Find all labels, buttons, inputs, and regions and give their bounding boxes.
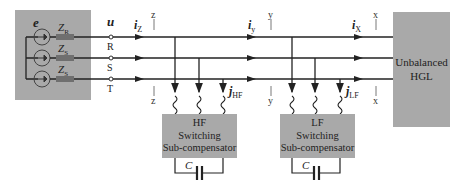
source-voltage-label: e	[33, 16, 39, 29]
compensator-name: Sub-compensator	[281, 142, 355, 155]
compensator-type: HF	[193, 117, 206, 130]
section-tick-z-bottom: z	[151, 96, 155, 106]
phase-label-s: S	[107, 63, 113, 73]
lf-compensator-label: LF Switching Sub-compensator	[280, 114, 355, 158]
current-label-jlf: jLF	[346, 85, 359, 100]
compensation-circuit-diagram: e ZR ZS ZS u R S T iZ iy iX z z y y x x …	[0, 0, 462, 190]
load-label: Unbalanced HGL	[393, 12, 450, 127]
impedance-label-t: ZS	[58, 64, 68, 78]
current-label-jhf: jHF	[229, 85, 243, 100]
current-label-iz: iZ	[134, 19, 142, 34]
load-name: HGL	[410, 70, 433, 83]
phase-label-t: T	[107, 84, 113, 94]
current-label-iy: iy	[248, 19, 255, 34]
capacitor-label-hf: C	[185, 160, 192, 171]
impedance-label-r: ZR	[58, 22, 69, 36]
section-tick-x-top: x	[373, 10, 378, 20]
compensator-name: Sub-compensator	[163, 142, 237, 155]
current-label-ix: iX	[352, 19, 361, 34]
terminal-voltage-label: u	[107, 15, 114, 28]
phase-label-r: R	[107, 42, 114, 52]
impedance-subscript: S	[64, 70, 68, 78]
current-subscript: y	[251, 25, 255, 34]
compensator-mode: Switching	[178, 130, 221, 143]
compensator-type: LF	[311, 117, 323, 130]
section-tick-x-bottom: x	[373, 96, 378, 106]
section-tick-y-top: y	[268, 10, 273, 20]
impedance-subscript: S	[64, 49, 68, 57]
current-subscript: Z	[137, 25, 142, 34]
hf-compensator-label: HF Switching Sub-compensator	[162, 114, 237, 158]
current-subscript: HF	[232, 91, 242, 100]
current-subscript: X	[355, 25, 361, 34]
impedance-subscript: R	[64, 28, 69, 36]
load-type: Unbalanced	[395, 56, 448, 69]
current-subscript: LF	[349, 91, 358, 100]
impedance-label-s: ZS	[58, 43, 68, 57]
section-tick-z-top: z	[151, 10, 155, 20]
inductor-icons	[173, 96, 342, 114]
capacitor-label-lf: C	[302, 160, 309, 171]
section-tick-y-bottom: y	[268, 96, 273, 106]
compensator-mode: Switching	[296, 130, 339, 143]
